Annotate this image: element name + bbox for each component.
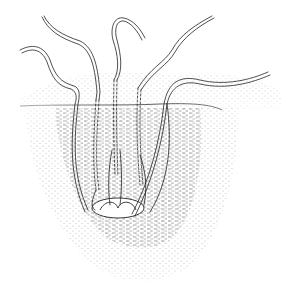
stippled-sediment — [0, 100, 288, 284]
worm-burrow-drawing — [0, 0, 288, 284]
burrow-chamber — [92, 198, 144, 218]
illustration — [0, 0, 288, 284]
